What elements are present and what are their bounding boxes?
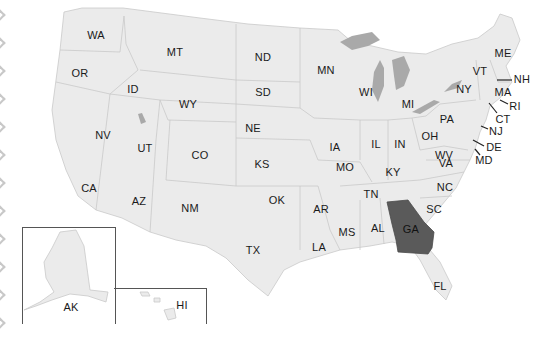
leader-ri xyxy=(500,100,508,104)
state-label-tx: TX xyxy=(246,244,260,256)
state-label-mn: MN xyxy=(317,64,335,76)
state-label-ms: MS xyxy=(339,226,356,238)
state-label-md: MD xyxy=(475,154,493,166)
state-label-nj: NJ xyxy=(489,125,503,137)
state-label-ri: RI xyxy=(509,100,520,112)
state-label-ok: OK xyxy=(269,194,285,206)
state-label-ut: UT xyxy=(137,142,152,154)
state-label-nc: NC xyxy=(437,181,453,193)
state-label-ia: IA xyxy=(330,141,341,153)
state-label-wi: WI xyxy=(359,86,373,98)
state-label-ga: GA xyxy=(403,223,419,235)
state-label-mi: MI xyxy=(402,98,415,110)
state-label-sc: SC xyxy=(426,203,442,215)
state-label-or: OR xyxy=(72,67,89,79)
state-label-ma: MA xyxy=(495,86,512,98)
state-label-vt: VT xyxy=(473,65,487,77)
state-label-in: IN xyxy=(394,138,405,150)
state-label-wa: WA xyxy=(87,29,105,41)
state-label-la: LA xyxy=(312,241,326,253)
state-label-ne: NE xyxy=(245,122,261,134)
leader-ct xyxy=(489,103,497,113)
state-label-pa: PA xyxy=(440,113,454,125)
state-label-sd: SD xyxy=(255,86,271,98)
state-label-de: DE xyxy=(486,141,502,153)
state-label-ca: CA xyxy=(81,182,97,194)
state-label-mt: MT xyxy=(167,46,183,58)
state-label-az: AZ xyxy=(132,195,146,207)
state-label-ks: KS xyxy=(254,158,269,170)
inset-hawaii-frame xyxy=(114,288,207,324)
state-label-nm: NM xyxy=(181,202,199,214)
state-label-me: ME xyxy=(495,47,512,59)
state-label-tn: TN xyxy=(363,188,378,200)
state-label-wy: WY xyxy=(179,98,197,110)
state-label-ak: AK xyxy=(63,301,78,313)
state-label-ar: AR xyxy=(313,203,329,215)
state-label-mo: MO xyxy=(336,161,354,173)
state-label-il: IL xyxy=(371,138,381,150)
state-label-nd: ND xyxy=(255,51,271,63)
state-label-co: CO xyxy=(192,149,209,161)
state-label-nh: NH xyxy=(514,73,530,85)
state-label-al: AL xyxy=(371,222,385,234)
state-label-ct: CT xyxy=(495,113,510,125)
state-label-hi: HI xyxy=(176,299,187,311)
state-label-fl: FL xyxy=(433,280,446,292)
state-label-ny: NY xyxy=(456,83,472,95)
state-label-va: VA xyxy=(439,157,453,169)
state-label-oh: OH xyxy=(422,130,439,142)
state-label-nv: NV xyxy=(95,129,111,141)
state-label-id: ID xyxy=(127,83,138,95)
state-label-ky: KY xyxy=(385,166,400,178)
